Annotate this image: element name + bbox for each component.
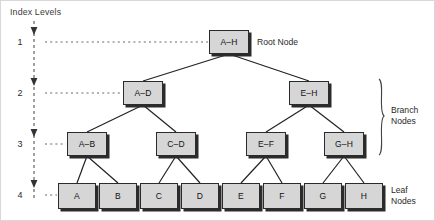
connectors-level3-to-level4 [77, 156, 364, 183]
node-leaf-c[interactable]: C [140, 183, 178, 209]
node-leaf-f[interactable]: F [263, 183, 301, 209]
connectors-level1-to-level2 [143, 54, 309, 81]
node-branch-g-h[interactable]: G–H [324, 132, 364, 156]
node-root-a-h[interactable]: A–H [209, 30, 249, 54]
node-branch-c-d[interactable]: C–D [156, 132, 196, 156]
node-leaf-e[interactable]: E [222, 183, 260, 209]
level-number-3: 3 [14, 139, 26, 149]
node-leaf-d[interactable]: D [181, 183, 219, 209]
node-branch-e-h[interactable]: E–H [289, 81, 329, 105]
axis-arrowhead-2 [31, 78, 38, 86]
connectors-level2-to-level3 [87, 105, 344, 132]
root-node-label: Root Node [257, 37, 298, 48]
node-leaf-h[interactable]: H [345, 183, 383, 209]
leaf-nodes-label-line2: Nodes [391, 196, 416, 207]
branch-nodes-label-line1: Branch [391, 105, 418, 116]
level-number-2: 2 [14, 88, 26, 98]
node-branch-e-f[interactable]: E–F [246, 132, 286, 156]
leaf-nodes-label: Leaf Nodes [391, 185, 416, 207]
axis-arrowhead-4 [31, 180, 38, 188]
index-levels-title: Index Levels [10, 7, 61, 17]
node-branch-a-d[interactable]: A–D [123, 81, 163, 105]
node-leaf-b[interactable]: B [99, 183, 137, 209]
axis-arrowhead-1 [31, 27, 38, 35]
axis-arrowhead-3 [31, 129, 38, 137]
node-leaf-a[interactable]: A [58, 183, 96, 209]
node-leaf-g[interactable]: G [304, 183, 342, 209]
level-number-1: 1 [14, 37, 26, 47]
index-levels-axis [31, 21, 38, 201]
branch-nodes-label-line2: Nodes [391, 116, 418, 127]
node-branch-a-b[interactable]: A–B [67, 132, 107, 156]
level-guide-lines [45, 42, 208, 195]
branch-nodes-label: Branch Nodes [391, 105, 418, 127]
index-levels-diagram: Index Levels [0, 0, 435, 221]
branch-nodes-brace [379, 79, 384, 155]
leaf-nodes-label-line1: Leaf [391, 185, 416, 196]
level-number-4: 4 [14, 190, 26, 200]
